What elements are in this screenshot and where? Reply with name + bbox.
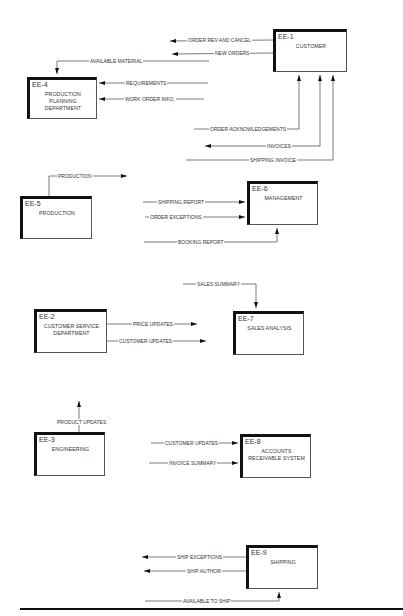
entity-name: PRODUCTION bbox=[23, 210, 91, 217]
entity-id: EE-5 bbox=[25, 200, 41, 207]
entity-ee2-customer-service[interactable]: EE-2 CUSTOMER SERVICEDEPARTMENT bbox=[34, 309, 107, 353]
flow-label-ship-exceptions: SHIP EXCEPTIONS bbox=[176, 554, 223, 560]
entity-id: EE-6 bbox=[252, 185, 268, 192]
entity-id: EE-7 bbox=[238, 315, 254, 322]
entity-id: EE-4 bbox=[32, 81, 48, 88]
entity-id: EE-3 bbox=[39, 436, 55, 443]
entity-ee7-sales-analysis[interactable]: EE-7 SALES ANALYSIS bbox=[233, 311, 304, 355]
flow-label-production: PRODUCTION bbox=[57, 173, 93, 179]
flow-label-customer-updates-in: CUSTOMER UPDATES bbox=[164, 440, 219, 446]
flow-label-available-to-ship: AVAILABLE TO SHIP bbox=[182, 598, 231, 604]
entity-id: EE-9 bbox=[251, 549, 267, 556]
entity-name: CUSTOMER SERVICEDEPARTMENT bbox=[37, 323, 106, 337]
flow-label-order-rev-cancel: ORDER REV AND CANCEL bbox=[187, 37, 252, 43]
flow-label-ship-author: SHIP AUTHOR bbox=[186, 568, 222, 574]
flow-label-work-order-info: WORK ORDER INFO. bbox=[124, 96, 176, 102]
entity-name: SALES ANALYSIS bbox=[236, 325, 303, 332]
entity-ee5-production[interactable]: EE-5 PRODUCTION bbox=[20, 196, 92, 239]
flow-label-booking-report: BOOKING REPORT bbox=[177, 239, 224, 245]
entity-id: EE-8 bbox=[245, 438, 261, 445]
entity-id: EE-1 bbox=[278, 33, 294, 40]
entity-name: CUSTOMER bbox=[276, 43, 346, 50]
entity-ee4-production-planning[interactable]: EE-4 PRODUCTIONPLANNINGDEPARTMENT bbox=[27, 77, 97, 119]
entity-ee3-engineering[interactable]: EE-3 ENGINEERING bbox=[34, 432, 105, 476]
entity-name: MANAGEMENT bbox=[250, 195, 317, 202]
flow-label-order-acknowledgements: ORDER ACKNOWLEDGEMENTS bbox=[209, 126, 287, 132]
entity-name: ENGINEERING bbox=[37, 446, 104, 453]
flow-label-requirements: REQUIREMENTS bbox=[125, 80, 167, 86]
flow-label-shipping-report: SHIPPING REPORT bbox=[157, 199, 205, 205]
entity-ee6-management[interactable]: EE-6 MANAGEMENT bbox=[247, 181, 318, 225]
flow-label-available-material: AVAILABLE MATERIAL bbox=[89, 58, 143, 64]
flow-label-new-orders: NEW ORDERS bbox=[214, 50, 250, 56]
entity-name: PRODUCTIONPLANNINGDEPARTMENT bbox=[30, 91, 96, 112]
entity-name: SHIPPING bbox=[249, 559, 317, 566]
entity-name: ACCOUNTSRECEIVABLE SYSTEM bbox=[243, 448, 310, 462]
flow-label-price-updates: PRICE UPDATES bbox=[132, 321, 174, 327]
flow-label-customer-updates-out: CUSTOMER UPDATES bbox=[118, 338, 173, 344]
entity-id: EE-2 bbox=[39, 313, 55, 320]
flow-label-product-updates: PRODUCT UPDATES bbox=[56, 419, 107, 425]
flow-label-sales-summary: SALES SUMMARY bbox=[196, 281, 241, 287]
entity-ee8-accounts-receivable[interactable]: EE-8 ACCOUNTSRECEIVABLE SYSTEM bbox=[240, 434, 311, 478]
flow-label-invoices: INVOICES bbox=[266, 143, 292, 149]
entity-ee9-shipping[interactable]: EE-9 SHIPPING bbox=[246, 545, 318, 589]
flow-label-invoice-summary: INVOICE SUMMARY bbox=[168, 460, 217, 466]
flow-label-shipping-invoice: SHIPPING INVOICE bbox=[249, 157, 297, 163]
flow-label-order-exceptions: ORDER EXCEPTIONS bbox=[149, 214, 203, 220]
entity-ee1-customer[interactable]: EE-1 CUSTOMER bbox=[273, 29, 347, 72]
page-divider bbox=[20, 608, 403, 610]
